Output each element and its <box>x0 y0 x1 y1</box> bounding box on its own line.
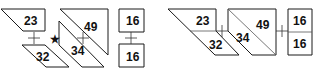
combo-34-49-label-34: 34 <box>236 31 250 45</box>
combo-34-49-label-49: 49 <box>256 18 270 32</box>
combined-pieces-group: 233249341616 <box>168 9 312 55</box>
diagram-canvas: 233249341616★ 233249341616 <box>0 0 314 77</box>
combo-16-16: 1616 <box>288 9 312 55</box>
piece-32-label: 32 <box>36 50 50 64</box>
plus-right-sign <box>125 32 137 44</box>
piece-23: 23 <box>1 9 45 31</box>
separated-pieces-group: 233249341616★ <box>1 9 144 67</box>
piece-16-bottom: 16 <box>119 44 144 67</box>
piece-49-label: 49 <box>84 20 98 34</box>
combo-23-32-label-23: 23 <box>196 14 210 28</box>
combo-34-49: 4934 <box>228 9 276 55</box>
piece-34-label: 34 <box>71 44 85 58</box>
piece-23-shape <box>1 9 45 31</box>
piece-23-label: 23 <box>24 14 38 28</box>
piece-16-bottom-label: 16 <box>126 50 140 64</box>
plus-left-sign <box>28 32 40 44</box>
star-icon: ★ <box>50 33 60 45</box>
tangram-area-diagram: 233249341616★ 233249341616 <box>0 0 314 77</box>
combo-16-16-label-16: 16 <box>293 37 307 51</box>
combo-23-32-label-32: 32 <box>209 38 223 52</box>
combo-16-16-label-16: 16 <box>293 14 307 28</box>
piece-16-top-label: 16 <box>126 14 140 28</box>
plus-combo-2-sign <box>276 25 288 37</box>
piece-16-top: 16 <box>119 9 144 32</box>
